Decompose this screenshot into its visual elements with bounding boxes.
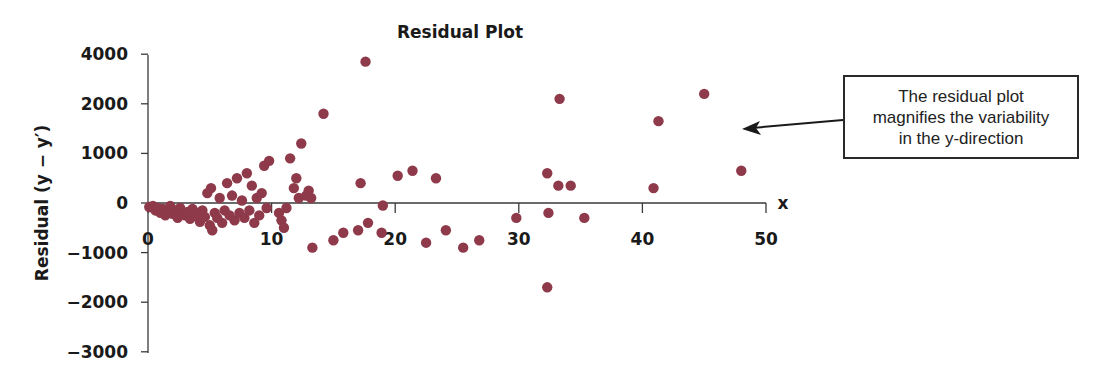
- x-axis-label: x: [778, 193, 789, 213]
- data-point: [554, 94, 564, 104]
- data-point: [227, 190, 237, 200]
- data-point: [542, 168, 552, 178]
- data-point: [307, 242, 317, 252]
- data-point: [736, 166, 746, 176]
- data-point: [566, 180, 576, 190]
- x-tick-label: 10: [260, 229, 284, 249]
- data-point: [206, 183, 216, 193]
- y-tick-label: −1000: [66, 243, 128, 263]
- data-points: [144, 56, 746, 292]
- data-point: [378, 200, 388, 210]
- x-tick-label: 20: [383, 229, 407, 249]
- data-point: [217, 218, 227, 228]
- data-point: [257, 188, 267, 198]
- data-point: [511, 213, 521, 223]
- data-point: [653, 116, 663, 126]
- data-point: [207, 225, 217, 235]
- residual-scatter-chart: Residual Plot 4000200010000−1000−2000−30…: [0, 0, 1115, 389]
- y-tick-label: 1000: [81, 143, 128, 163]
- x-tick-label: 30: [507, 229, 531, 249]
- x-tick-label: 50: [754, 229, 778, 249]
- y-tick-label: 2000: [81, 94, 128, 114]
- annotation-callout-box: The residual plot magnifies the variabil…: [843, 75, 1079, 159]
- data-point: [542, 282, 552, 292]
- data-point: [279, 223, 289, 233]
- data-point: [353, 225, 363, 235]
- data-point: [474, 235, 484, 245]
- x-tick-label: 0: [142, 229, 154, 249]
- data-point: [214, 193, 224, 203]
- data-point: [392, 171, 402, 181]
- callout-line-2: magnifies the variability: [873, 107, 1050, 128]
- callout-line-3: in the y-direction: [899, 128, 1024, 149]
- y-axis: 4000200010000−1000−2000−3000 Residual (y…: [32, 44, 148, 362]
- data-point: [261, 203, 271, 213]
- data-point: [328, 235, 338, 245]
- data-point: [247, 180, 257, 190]
- data-point: [254, 210, 264, 220]
- data-point: [338, 228, 348, 238]
- data-point: [264, 156, 274, 166]
- data-point: [318, 109, 328, 119]
- data-point: [579, 213, 589, 223]
- chart-title: Residual Plot: [397, 22, 523, 42]
- y-tick-label: 0: [116, 193, 128, 213]
- data-point: [306, 193, 316, 203]
- data-point: [289, 183, 299, 193]
- data-point: [376, 228, 386, 238]
- data-point: [441, 225, 451, 235]
- data-point: [285, 153, 295, 163]
- data-point: [699, 89, 709, 99]
- x-tick-label: 40: [631, 229, 655, 249]
- y-tick-label: 4000: [81, 44, 128, 64]
- data-point: [363, 218, 373, 228]
- data-point: [296, 138, 306, 148]
- data-point: [244, 205, 254, 215]
- y-axis-label: Residual (y − y′): [32, 125, 52, 281]
- callout-line-1: The residual plot: [898, 86, 1024, 107]
- data-point: [242, 168, 252, 178]
- data-point: [237, 195, 247, 205]
- data-point: [360, 56, 370, 66]
- data-point: [281, 203, 291, 213]
- data-point: [232, 173, 242, 183]
- data-point: [543, 208, 553, 218]
- data-point: [421, 237, 431, 247]
- data-point: [553, 180, 563, 190]
- y-tick-label: −2000: [66, 292, 128, 312]
- y-tick-label: −3000: [66, 342, 128, 362]
- callout-arrow: [742, 120, 843, 135]
- data-point: [648, 183, 658, 193]
- data-point: [355, 178, 365, 188]
- data-point: [222, 178, 232, 188]
- data-point: [431, 173, 441, 183]
- data-point: [458, 242, 468, 252]
- data-point: [291, 173, 301, 183]
- data-point: [407, 166, 417, 176]
